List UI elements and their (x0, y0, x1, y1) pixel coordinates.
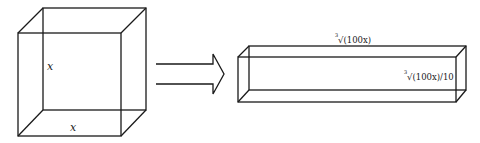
prism-side-label: 3 √(100x)/10 (404, 69, 454, 82)
prism-back-face (249, 46, 466, 90)
prism-edge-bottom-right (456, 90, 466, 102)
side-expression: √(100x)/10 (407, 72, 454, 82)
cube-edge-top-left (18, 8, 43, 33)
cube-width-label: x (70, 121, 77, 134)
cube-edge-top-right (121, 8, 146, 33)
prism-edge-bottom-left (238, 90, 249, 102)
cube: x x (18, 8, 146, 136)
prism-length-label: 3 √(100x) (335, 32, 371, 45)
transform-arrow (156, 54, 224, 94)
prism: 3 √(100x) 3 √(100x)/10 (238, 32, 466, 102)
diagram-canvas: x x 3 √(100x) 3 √(100x)/10 (0, 0, 480, 143)
prism-edge-top-right (456, 46, 466, 57)
cube-height-label: x (47, 60, 54, 73)
prism-edge-top-left (238, 46, 249, 57)
double-arrow-icon (156, 54, 224, 94)
length-expression: √(100x) (338, 35, 371, 45)
cube-edge-bottom-right (121, 110, 146, 136)
cube-edge-bottom-left (18, 110, 43, 136)
